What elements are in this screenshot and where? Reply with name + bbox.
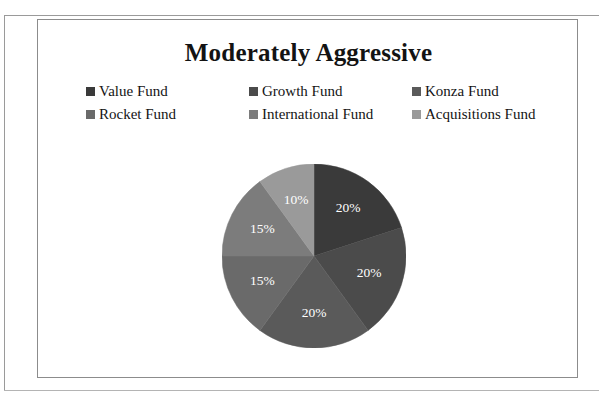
chart-frame: Moderately Aggressive Value Fund Growth … bbox=[37, 19, 578, 378]
legend-item-value-fund[interactable]: Value Fund bbox=[86, 84, 249, 99]
legend-item-label: Growth Fund bbox=[262, 84, 342, 99]
legend-swatch-icon bbox=[86, 87, 95, 96]
legend-item-label: Konza Fund bbox=[425, 84, 499, 99]
legend-item-label: International Fund bbox=[262, 107, 373, 122]
legend-item-rocket-fund[interactable]: Rocket Fund bbox=[86, 107, 249, 122]
page-border-top bbox=[4, 15, 599, 16]
legend-item-acquisitions-fund[interactable]: Acquisitions Fund bbox=[412, 107, 556, 122]
pie-slice-label: 20% bbox=[336, 200, 361, 215]
legend-item-label: Value Fund bbox=[99, 84, 168, 99]
chart-legend: Value Fund Growth Fund Konza Fund Rocket… bbox=[86, 80, 556, 126]
legend-swatch-icon bbox=[412, 87, 421, 96]
legend-item-konza-fund[interactable]: Konza Fund bbox=[412, 84, 556, 99]
legend-swatch-icon bbox=[86, 110, 95, 119]
legend-swatch-icon bbox=[412, 110, 421, 119]
pie-slice-label: 15% bbox=[250, 273, 275, 288]
legend-swatch-icon bbox=[249, 110, 258, 119]
legend-item-international-fund[interactable]: International Fund bbox=[249, 107, 412, 122]
pie-chart: 20%20%20%15%15%10% bbox=[222, 164, 406, 348]
pie-chart-svg: 20%20%20%15%15%10% bbox=[222, 164, 406, 348]
pie-slice-label: 20% bbox=[302, 305, 327, 320]
pie-slice-label: 15% bbox=[250, 221, 275, 236]
page-border-left bbox=[4, 15, 5, 390]
legend-item-growth-fund[interactable]: Growth Fund bbox=[249, 84, 412, 99]
legend-swatch-icon bbox=[249, 87, 258, 96]
legend-item-label: Rocket Fund bbox=[99, 107, 176, 122]
legend-row: Value Fund Growth Fund Konza Fund bbox=[86, 80, 556, 103]
legend-item-label: Acquisitions Fund bbox=[425, 107, 535, 122]
page-border-bottom bbox=[4, 390, 599, 391]
pie-slice-label: 10% bbox=[284, 192, 309, 207]
pie-slice-label: 20% bbox=[357, 265, 382, 280]
pie-slice-group bbox=[222, 164, 406, 348]
legend-row: Rocket Fund International Fund Acquisiti… bbox=[86, 103, 556, 126]
page-title: Moderately Aggressive bbox=[38, 39, 579, 67]
